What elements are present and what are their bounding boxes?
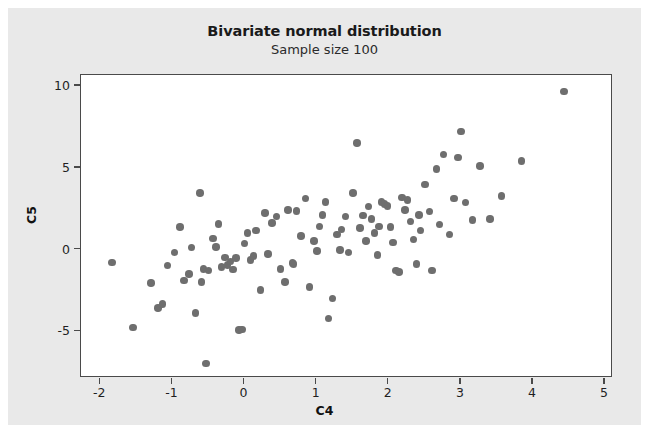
y-axis-title: C5 [24, 206, 39, 224]
data-point [264, 250, 272, 258]
data-point [417, 227, 425, 235]
data-point [316, 223, 324, 231]
data-point [498, 192, 506, 200]
y-axis-tick-label: 5 [44, 159, 70, 174]
data-point [384, 202, 392, 210]
data-point [147, 279, 155, 287]
data-point [518, 157, 526, 165]
data-point [212, 243, 220, 251]
data-point [108, 259, 116, 267]
data-point [440, 151, 448, 159]
data-point [375, 223, 383, 231]
x-axis-tick [603, 378, 604, 384]
x-axis-tick-label: 4 [528, 385, 536, 400]
y-axis-tick [74, 84, 80, 85]
data-point [250, 252, 258, 260]
data-point [205, 267, 213, 275]
data-point [476, 162, 484, 170]
data-point [306, 283, 314, 291]
data-point [284, 206, 292, 214]
data-point [349, 189, 357, 197]
data-point [202, 360, 210, 368]
data-point [159, 300, 167, 308]
data-point [281, 278, 289, 286]
x-axis-tick [531, 378, 532, 384]
data-point [215, 220, 223, 228]
x-axis-tick [315, 378, 316, 384]
data-point [325, 315, 333, 323]
data-point [395, 268, 403, 276]
data-point [261, 209, 269, 217]
data-point [192, 309, 200, 317]
data-point [338, 226, 346, 234]
data-point [387, 223, 395, 231]
data-point [273, 213, 281, 221]
data-point [329, 295, 337, 303]
data-point [297, 232, 305, 240]
data-point [415, 211, 423, 219]
x-axis-tick-label: 0 [240, 385, 248, 400]
data-points-layer [81, 75, 611, 376]
data-point [319, 211, 327, 219]
x-axis-tick [459, 378, 460, 384]
x-axis-tick [99, 378, 100, 384]
data-point [407, 218, 415, 226]
data-point [486, 215, 494, 223]
data-point [180, 277, 188, 285]
data-point [356, 224, 364, 232]
y-axis-tick [74, 330, 80, 331]
data-point [362, 237, 370, 245]
data-point [171, 249, 179, 257]
data-point [436, 221, 444, 229]
x-axis-tick-label: 1 [312, 385, 320, 400]
data-point [353, 139, 361, 147]
data-point [209, 235, 217, 243]
data-point [410, 236, 418, 244]
data-point [389, 239, 397, 247]
x-axis-tick [171, 378, 172, 384]
scatter-plot-figure: Bivariate normal distribution Sample siz… [0, 0, 649, 439]
graph-panel: Bivariate normal distribution Sample siz… [8, 8, 641, 425]
y-axis-tick [74, 166, 80, 167]
data-point [446, 231, 454, 239]
data-point [426, 208, 434, 216]
data-point [238, 326, 246, 334]
data-point [176, 223, 184, 231]
data-point [428, 267, 436, 275]
data-point [457, 128, 465, 136]
data-point [450, 195, 458, 203]
data-point [268, 219, 276, 227]
data-point [413, 260, 421, 268]
data-point [310, 237, 318, 245]
chart-title: Bivariate normal distribution [8, 22, 641, 40]
data-point [302, 195, 310, 203]
data-point [232, 254, 240, 262]
data-point [188, 244, 196, 252]
data-point [252, 227, 260, 235]
data-point [290, 260, 298, 268]
data-point [257, 286, 265, 294]
data-point [560, 88, 568, 96]
y-axis-tick-label: -5 [44, 323, 70, 338]
data-point [241, 240, 249, 248]
y-axis-tick-label: 0 [44, 241, 70, 256]
data-point [462, 199, 470, 207]
data-point [164, 262, 172, 270]
y-axis-tick-label: 10 [44, 78, 70, 93]
x-axis-tick-label: 2 [384, 385, 392, 400]
data-point [185, 270, 193, 278]
y-axis-tick [74, 248, 80, 249]
data-point [469, 216, 477, 224]
data-point [277, 265, 285, 273]
data-point [421, 181, 429, 189]
data-point [368, 215, 376, 223]
x-axis-tick-label: 5 [600, 385, 608, 400]
data-point [229, 266, 237, 274]
data-point [129, 324, 137, 332]
data-point [196, 189, 204, 197]
data-point [198, 278, 206, 286]
data-point [342, 213, 350, 221]
data-point [313, 247, 321, 255]
title-block: Bivariate normal distribution Sample siz… [8, 22, 641, 58]
data-point [345, 249, 353, 257]
